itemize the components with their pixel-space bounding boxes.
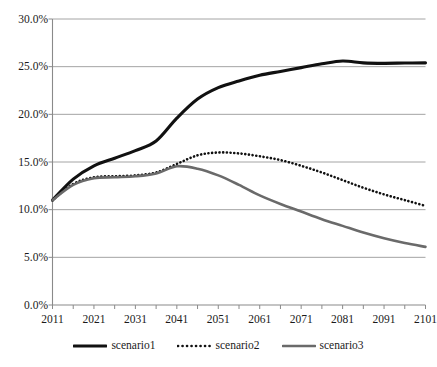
x-tick-label: 2041	[154, 314, 200, 326]
x-tick-label: 2011	[30, 314, 76, 326]
x-tick-label: 2061	[237, 314, 283, 326]
x-axis-tick-labels: 2011202120312041205120612071208120912101	[0, 0, 437, 367]
legend-swatch-solid-icon	[282, 341, 316, 351]
x-tick-label: 2031	[112, 314, 158, 326]
legend-swatch-dotted-icon	[177, 341, 211, 351]
x-tick-label: 2101	[403, 314, 437, 326]
legend-entry-scenario2[interactable]: scenario2	[177, 340, 259, 352]
x-tick-label: 2071	[278, 314, 324, 326]
x-tick-label: 2021	[71, 314, 117, 326]
legend-label: scenario1	[111, 340, 155, 352]
legend-label: scenario2	[215, 340, 259, 352]
chart-legend: scenario1scenario2scenario3	[0, 336, 437, 356]
legend-swatch-solid-icon	[73, 341, 107, 351]
legend-entry-scenario3[interactable]: scenario3	[282, 340, 364, 352]
line-chart: 30.0%25.0%20.0%15.0%10.0%5.0%0.0% 201120…	[0, 0, 437, 367]
legend-label: scenario3	[320, 340, 364, 352]
legend-entry-scenario1[interactable]: scenario1	[73, 340, 155, 352]
x-tick-label: 2051	[195, 314, 241, 326]
x-tick-label: 2091	[361, 314, 407, 326]
x-tick-label: 2081	[320, 314, 366, 326]
